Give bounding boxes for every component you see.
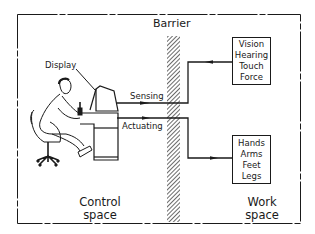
barrier-wall	[167, 36, 180, 222]
modality-force: Force	[240, 72, 263, 83]
modality-hearing: Hearing	[235, 50, 268, 61]
effector-arms: Arms	[241, 149, 263, 160]
effector-legs: Legs	[242, 171, 262, 182]
actuating-label: Actuating	[122, 122, 163, 131]
modality-vision: Vision	[239, 39, 264, 50]
effector-hands: Hands	[238, 138, 265, 149]
sensing-label: Sensing	[130, 92, 164, 101]
teleoperation-diagram: Barrier Display Sensing Actuating Vision…	[0, 0, 315, 234]
work-space-label: Work space	[232, 196, 292, 222]
actuating-effectors-box: Hands Arms Feet Legs	[232, 135, 271, 184]
display-pointer	[76, 69, 95, 90]
modality-touch: Touch	[239, 61, 263, 72]
sensing-modalities-box: Vision Hearing Touch Force	[232, 37, 271, 85]
operator-figure	[31, 79, 92, 167]
effector-feet: Feet	[242, 160, 260, 171]
barrier-label: Barrier	[153, 18, 191, 29]
display-label: Display	[45, 61, 76, 70]
control-space-label: Control space	[70, 196, 130, 222]
